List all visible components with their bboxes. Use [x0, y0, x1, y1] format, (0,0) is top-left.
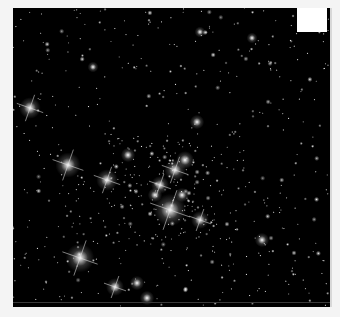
star-field-image	[13, 8, 330, 307]
frame-edge	[330, 8, 332, 307]
scan-line-artifact	[13, 302, 330, 303]
corner-white-box	[297, 8, 327, 32]
star-field-canvas	[13, 8, 330, 307]
